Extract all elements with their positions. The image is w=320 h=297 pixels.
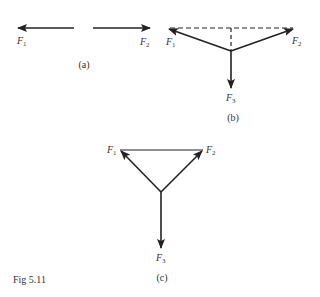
force-diagram: F1 F2 (a) F1 F2 F3 (b) F1 F2 F3 (c) Fig … (0, 0, 320, 297)
label-f2: F2 (205, 144, 216, 157)
label-f1: F1 (16, 35, 27, 48)
label-f1: F1 (106, 144, 117, 157)
force-arrow-f2 (231, 29, 293, 51)
label-f3: F3 (225, 92, 236, 105)
panel-label-c: (c) (156, 272, 167, 284)
label-f3: F3 (155, 252, 166, 265)
panel-c: F1 F2 F3 (c) (106, 144, 216, 284)
label-f2: F2 (139, 36, 150, 49)
panel-label-a: (a) (78, 59, 89, 71)
label-f2: F2 (291, 35, 302, 48)
panel-label-b: (b) (227, 112, 239, 124)
force-arrow-f1 (169, 29, 231, 51)
figure-caption: Fig 5.11 (13, 274, 46, 285)
label-f1: F1 (165, 36, 176, 49)
force-arrow-f2 (161, 151, 202, 192)
force-arrow-f1 (121, 151, 161, 192)
panel-a: F1 F2 (a) (16, 28, 150, 71)
panel-b: F1 F2 F3 (b) (165, 28, 302, 124)
